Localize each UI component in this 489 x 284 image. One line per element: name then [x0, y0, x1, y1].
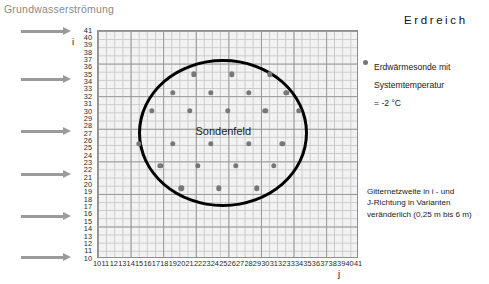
x-axis-name: j	[338, 268, 340, 279]
grid-spacing-note: Gitternetzweite in i - und J-Richtung in…	[367, 186, 489, 220]
legend-entry-label: Erdwärmesonde mit Systemtemperatur = -2 …	[374, 62, 450, 108]
y-axis-tick-labels: 4140393837363534333231302928272625242322…	[62, 30, 92, 258]
legend: Erdwärmesonde mit Systemtemperatur = -2 …	[363, 56, 489, 110]
groundwater-flow-caption: Grundwasserströmung	[4, 3, 114, 15]
soil-region-heading: Erdreich	[404, 14, 468, 26]
legend-entry: Erdwärmesonde mit Systemtemperatur = -2 …	[363, 56, 489, 110]
figure-canvas: Grundwasserströmung 41403938373635343332…	[0, 0, 489, 284]
y-axis-name: i	[72, 36, 74, 47]
x-axis-tick-labels: 1011121314151617181920212223242526272829…	[90, 260, 380, 272]
grid-plot-area	[97, 30, 358, 258]
x-tick-label: 41	[351, 260, 365, 267]
borehole-dot-icon	[363, 60, 368, 65]
